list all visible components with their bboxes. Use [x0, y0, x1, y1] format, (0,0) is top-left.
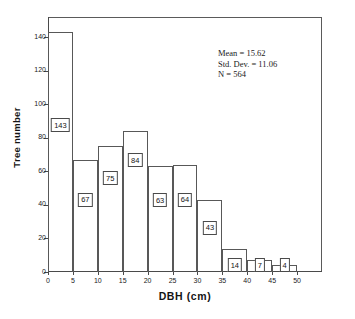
x-tick-mark — [297, 271, 298, 275]
histogram-figure: 020406080100120140 05101520253035404550 … — [0, 0, 355, 319]
bar-value-label: 143 — [51, 118, 70, 132]
histogram-bar — [48, 32, 73, 272]
stats-n: N = 564 — [218, 69, 277, 80]
y-tick-label: 120 — [34, 65, 46, 74]
bar-value-label: 75 — [103, 171, 117, 185]
bar-value-label: 43 — [203, 221, 217, 235]
histogram-bar — [173, 165, 198, 272]
bar-value-label: 4 — [280, 258, 290, 272]
stats-mean: Mean = 15.62 — [218, 48, 277, 59]
bar-value-label: 67 — [78, 193, 92, 207]
y-tick-label: 80 — [38, 132, 46, 141]
y-tick-label: 0 — [42, 267, 46, 276]
histogram-bar — [98, 146, 123, 272]
histogram-bar — [197, 200, 222, 272]
bar-value-label: 84 — [128, 153, 142, 167]
y-tick-label: 100 — [34, 99, 46, 108]
x-tick-label: 35 — [212, 276, 232, 285]
x-axis-title: DBH (cm) — [48, 290, 322, 302]
x-tick-label: 30 — [187, 276, 207, 285]
y-tick-label: 20 — [38, 233, 46, 242]
stats-annotation: Mean = 15.62 Std. Dev. = 11.06 N = 564 — [218, 48, 277, 80]
bar-value-label: 7 — [255, 258, 265, 272]
x-tick-label: 15 — [113, 276, 133, 285]
y-tick-label: 40 — [38, 199, 46, 208]
y-tick-label: 140 — [34, 32, 46, 41]
stats-std-dev: Std. Dev. = 11.06 — [218, 59, 277, 70]
x-tick-label: 10 — [88, 276, 108, 285]
bar-value-label: 14 — [228, 258, 242, 272]
bar-value-label: 64 — [178, 193, 192, 207]
plot-area: 020406080100120140 05101520253035404550 … — [48, 17, 322, 272]
x-tick-label: 50 — [287, 276, 307, 285]
histogram-bar — [148, 166, 173, 272]
x-tick-label: 45 — [262, 276, 282, 285]
x-tick-label: 25 — [163, 276, 183, 285]
x-tick-label: 40 — [237, 276, 257, 285]
y-tick-label: 60 — [38, 166, 46, 175]
bar-value-label: 63 — [153, 193, 167, 207]
x-tick-label: 0 — [38, 276, 58, 285]
histogram-bar — [73, 160, 98, 272]
x-tick-label: 20 — [138, 276, 158, 285]
x-tick-label: 5 — [63, 276, 83, 285]
y-axis-title: Tree number — [11, 83, 22, 193]
